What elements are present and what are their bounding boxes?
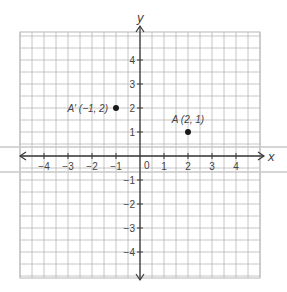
- coordinate-plane: xy −4−3−2−112344321−1−2−3−40 A' (−1, 2)A…: [0, 0, 287, 292]
- svg-text:0: 0: [144, 160, 150, 171]
- svg-text:x: x: [267, 149, 275, 164]
- svg-text:−4: −4: [38, 161, 50, 172]
- svg-text:1: 1: [161, 161, 167, 172]
- svg-text:4: 4: [233, 161, 239, 172]
- svg-text:−3: −3: [62, 161, 74, 172]
- svg-text:2: 2: [129, 103, 135, 114]
- svg-text:3: 3: [209, 161, 215, 172]
- svg-text:y: y: [136, 10, 145, 25]
- svg-text:−3: −3: [124, 223, 136, 234]
- svg-text:−2: −2: [124, 199, 136, 210]
- axes: xy: [20, 10, 275, 280]
- svg-text:−4: −4: [124, 247, 136, 258]
- svg-text:A' (−1, 2): A' (−1, 2): [66, 103, 108, 114]
- svg-text:2: 2: [185, 161, 191, 172]
- svg-text:A (2, 1): A (2, 1): [171, 114, 204, 125]
- svg-text:3: 3: [129, 79, 135, 90]
- svg-text:−1: −1: [110, 161, 122, 172]
- svg-text:1: 1: [129, 127, 135, 138]
- svg-text:−2: −2: [86, 161, 98, 172]
- svg-text:−1: −1: [124, 175, 136, 186]
- svg-text:4: 4: [129, 55, 135, 66]
